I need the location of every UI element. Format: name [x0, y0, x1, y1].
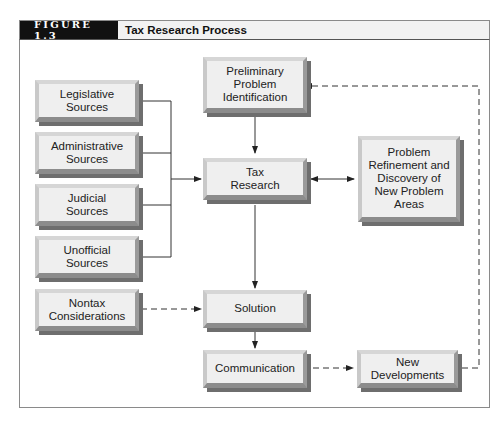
arrow-new-to-prelim: [305, 86, 479, 368]
node-new-developments: NewDevelopments: [357, 350, 458, 388]
sources-bus: [141, 101, 201, 257]
node-judicial: JudicialSources: [35, 184, 139, 226]
node-preliminary: PreliminaryProblemIdentification: [203, 57, 307, 113]
node-unofficial: UnofficialSources: [35, 236, 139, 278]
node-nontax: NontaxConsiderations: [35, 289, 139, 331]
node-solution: Solution: [203, 290, 307, 328]
node-communication: Communication: [203, 350, 307, 388]
node-legislative: LegislativeSources: [35, 80, 139, 122]
node-refinement: ProblemRefinement andDiscovery ofNew Pro…: [358, 136, 460, 222]
node-administrative: AdministrativeSources: [35, 132, 139, 174]
node-tax-research: TaxResearch: [203, 158, 307, 200]
